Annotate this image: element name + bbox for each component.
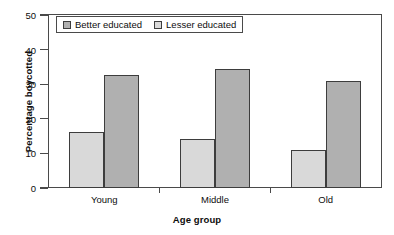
chart-legend: Better educatedLesser educated [56, 16, 243, 33]
y-tick-label: 40 [2, 44, 36, 55]
x-tick-label: Old [281, 194, 371, 205]
y-tick-mark [40, 84, 48, 85]
chart-figure: Percentage boycotted 01020304050 YoungMi… [0, 0, 394, 235]
y-tick-label: 0 [2, 183, 36, 194]
bar [291, 150, 326, 188]
legend-label: Lesser educated [166, 19, 236, 30]
y-tick-mark [40, 49, 48, 50]
legend-swatch-icon [154, 21, 162, 29]
y-tick-label: 20 [2, 113, 36, 124]
legend-swatch-icon [63, 21, 71, 29]
y-tick-label: 10 [2, 148, 36, 159]
bar [69, 132, 104, 188]
bar [215, 69, 250, 188]
y-tick-mark [40, 153, 48, 154]
y-tick-mark [40, 118, 48, 119]
y-tick-label: 30 [2, 79, 36, 90]
legend-entry: Better educated [63, 19, 142, 30]
x-axis-title: Age group [0, 214, 394, 225]
x-tick-label: Young [59, 194, 149, 205]
x-tick-label: Middle [170, 194, 260, 205]
bar [180, 139, 215, 188]
y-tick-label: 50 [2, 10, 36, 21]
bar [104, 75, 139, 188]
x-tick-mark [270, 188, 271, 193]
bar-series-layer [49, 15, 381, 188]
bar [326, 81, 361, 188]
legend-label: Better educated [75, 19, 142, 30]
y-tick-mark [40, 14, 48, 15]
legend-entry: Lesser educated [154, 19, 236, 30]
y-tick-mark [40, 187, 48, 188]
x-tick-mark [159, 188, 160, 193]
